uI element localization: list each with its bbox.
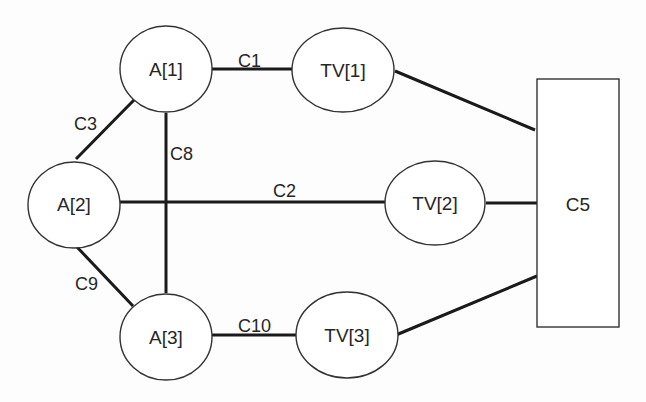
edge-tv3-c5 <box>396 276 537 335</box>
node-c5-label: C5 <box>566 194 590 215</box>
edge-tv1-c5 <box>395 71 535 130</box>
node-a3: A[3] <box>120 294 212 380</box>
node-a1: A[1] <box>120 26 212 112</box>
edge-label-c10: C10 <box>238 316 271 336</box>
node-tv3: TV[3] <box>296 292 398 378</box>
diagram-canvas: C1 C2 C3 C8 C9 C10 A[1] TV[1] A[2] TV <box>0 0 646 402</box>
edge-label-c9: C9 <box>75 274 98 294</box>
edge-label-c8: C8 <box>170 144 193 164</box>
node-tv3-label: TV[3] <box>324 325 369 346</box>
node-c5: C5 <box>537 79 619 327</box>
node-tv1-label: TV[1] <box>320 60 365 81</box>
edge-label-c3: C3 <box>74 114 97 134</box>
node-a1-label: A[1] <box>149 59 183 80</box>
node-a2: A[2] <box>28 162 120 248</box>
network-diagram: C1 C2 C3 C8 C9 C10 A[1] TV[1] A[2] TV <box>0 0 646 402</box>
node-tv2: TV[2] <box>385 161 485 245</box>
edge-label-c2: C2 <box>273 181 296 201</box>
node-a3-label: A[3] <box>149 327 183 348</box>
node-a2-label: A[2] <box>57 194 91 215</box>
node-tv2-label: TV[2] <box>412 193 457 214</box>
edge-label-c1: C1 <box>238 51 261 71</box>
node-tv1: TV[1] <box>292 28 394 112</box>
